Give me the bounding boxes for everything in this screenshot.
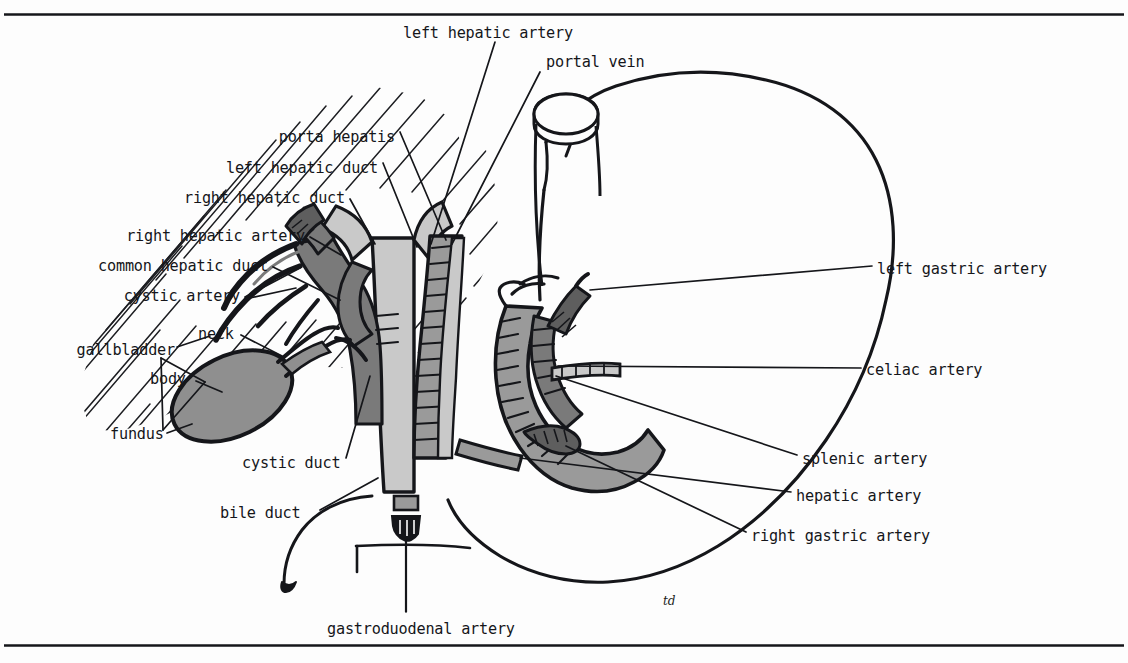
label-hepatic-artery: hepatic artery — [796, 489, 921, 504]
label-porta-hepatis: porta hepatis — [279, 130, 395, 145]
label-gallbladder: gallbladder — [77, 343, 175, 358]
label-right-gastric-artery: right gastric artery — [751, 529, 930, 544]
label-right-hepatic-artery: right hepatic artery — [126, 229, 305, 244]
anatomy-illustration — [0, 0, 1128, 663]
label-bile-duct: bile duct — [220, 506, 301, 521]
label-left-hepatic-artery: left hepatic artery — [403, 26, 573, 41]
label-neck: neck — [198, 327, 234, 342]
label-cystic-artery: cystic artery — [124, 289, 240, 304]
label-splenic-artery: splenic artery — [802, 452, 927, 467]
label-body: body — [150, 372, 186, 387]
label-left-gastric-artery: left gastric artery — [877, 262, 1047, 277]
artist-signature: td — [663, 594, 676, 608]
label-right-hepatic-duct: right hepatic duct — [184, 191, 345, 206]
label-common-hepatic-duct: common hepatic duct — [98, 259, 268, 274]
label-portal-vein: portal vein — [546, 55, 644, 70]
label-fundus: fundus — [110, 427, 164, 442]
label-celiac-artery: celiac artery — [866, 363, 982, 378]
figure-page: left hepatic artery portal vein porta he… — [0, 0, 1128, 663]
label-gastroduodenal-artery: gastroduodenal artery — [327, 622, 515, 637]
label-left-hepatic-duct: left hepatic duct — [226, 161, 378, 176]
label-cystic-duct: cystic duct — [242, 456, 340, 471]
